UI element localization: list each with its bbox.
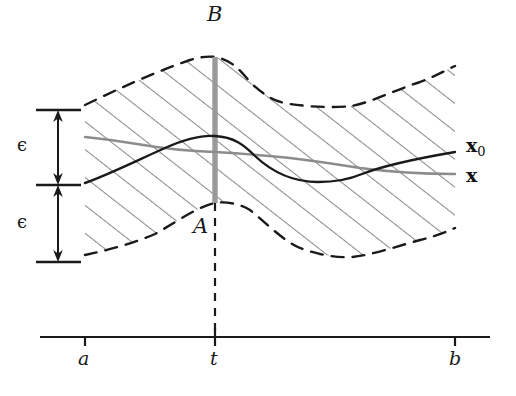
axis-label-b: b <box>449 349 461 368</box>
label-point-A: A <box>193 216 208 237</box>
label-epsilon-upper: ϵ <box>17 136 27 154</box>
curve-label-x0-base: x <box>466 134 477 156</box>
epsilon-arrow-upper <box>53 110 63 185</box>
axis-label-t: t <box>210 349 218 368</box>
curve-label-x: x <box>466 166 477 185</box>
curve-label-x0-subscript: 0 <box>477 144 485 159</box>
variational-epsilon-band-figure: B A ϵ ϵ a t b x0 x <box>0 0 516 396</box>
label-point-B: B <box>207 4 222 25</box>
label-epsilon-lower: ϵ <box>17 213 27 231</box>
axis-label-a: a <box>78 349 89 368</box>
figure-canvas <box>0 0 516 396</box>
horizontal-axis <box>40 328 490 346</box>
epsilon-arrow-lower <box>53 185 63 262</box>
curve-label-x0: x0 <box>466 136 486 158</box>
epsilon-bracket <box>36 110 81 262</box>
